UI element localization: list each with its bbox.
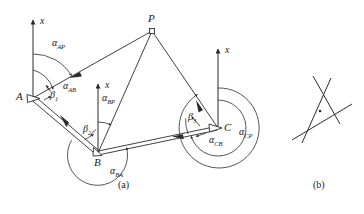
angle-label-alpha-CB: αCB [209,135,222,145]
axis-label-x-at-A: x [40,16,44,26]
angle-label-beta-1: β1 [50,90,58,100]
angle-label-alpha-AB: αAB [63,81,76,91]
point-label-C: C [224,122,231,133]
angle-subscript: AB [68,86,76,93]
angle-subscript: AP [57,43,65,50]
angle-subscript: 3 [193,117,196,124]
angle-label-beta-3: β3 [188,112,196,122]
axis-label-x-at-B: x [105,80,109,90]
figure-drawing [0,0,364,214]
error-line-2 [313,76,340,124]
angle-label-alpha-CP: αCP [239,127,252,137]
angle-label-beta-2: β2 [83,124,91,134]
axis-label-x-at-C: x [225,45,229,55]
direction-arrow-PC [196,100,203,113]
angle-subscript: CB [214,140,222,147]
angle-label-alpha-BP: αBP [102,93,115,103]
error-line-1 [302,78,331,143]
angle-subscript: 1 [55,95,58,102]
error-line-3 [292,104,352,140]
error-triangle-lines [292,76,352,143]
caption-panel-a: (a) [118,180,129,190]
angle-subscript: 2 [88,129,91,136]
point-label-B: B [94,157,101,168]
station-marker-P [150,29,155,34]
traverse-leg-BC [98,126,217,154]
point-label-P: P [148,13,155,24]
angle-label-alpha-AP: αAP [52,38,65,48]
angle-subscript: BP [107,98,115,105]
angle-subscript: BA [115,171,123,178]
angle-subscript: CP [244,132,252,139]
figure-container: A B C P x x x αAP αAB β1 αBP β2 αBA β3 α… [0,0,364,214]
angle-label-alpha-BA: αBA [110,166,123,176]
arc-alpha-AB [33,70,53,89]
error-triangle-point [319,110,322,113]
sight-line-AP [33,31,152,98]
caption-panel-b: (b) [313,180,325,190]
point-label-A: A [16,91,23,102]
arc-alpha-BP [98,122,111,125]
sight-line-PC [152,31,218,128]
